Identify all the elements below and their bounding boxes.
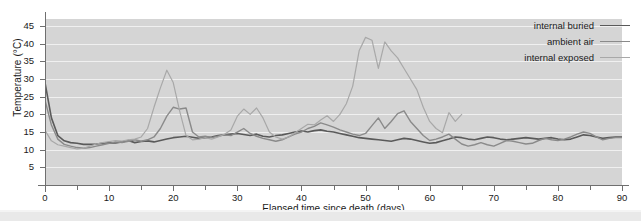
- x-tick-25: [205, 186, 206, 190]
- y-tick-5: [40, 167, 45, 168]
- legend-swatch-ambient-air: [600, 41, 630, 42]
- x-tick-label-20: 20: [158, 192, 188, 203]
- x-tick-60: [430, 186, 431, 191]
- chart-figure: 51015202530354045 0102030405060708090 Te…: [0, 0, 641, 221]
- series-line-internal-exposed: [45, 37, 462, 149]
- legend-label-ambient-air: ambient air: [547, 36, 594, 47]
- legend-item-internal-buried: internal buried: [455, 17, 630, 33]
- x-tick-label-10: 10: [94, 192, 124, 203]
- page-edge-strip: [0, 212, 641, 221]
- chart-legend: internal buried ambient air internal exp…: [455, 17, 630, 65]
- y-tick-label-5: 5: [8, 162, 34, 171]
- y-tick-10: [40, 150, 45, 151]
- x-tick-75: [526, 186, 527, 190]
- legend-label-internal-exposed: internal exposed: [524, 52, 594, 63]
- legend-item-ambient-air: ambient air: [455, 33, 630, 49]
- y-tick-35: [40, 61, 45, 62]
- x-tick-65: [462, 186, 463, 190]
- x-tick-40: [301, 186, 302, 191]
- y-tick-25: [40, 97, 45, 98]
- x-tick-45: [334, 186, 335, 190]
- y-tick-40: [40, 44, 45, 45]
- y-axis-title: Temperature (°C): [12, 8, 23, 148]
- x-tick-50: [366, 186, 367, 191]
- x-tick-label-70: 70: [479, 192, 509, 203]
- x-tick-15: [141, 186, 142, 190]
- x-tick-0: [45, 186, 46, 191]
- y-tick-15: [40, 132, 45, 133]
- y-axis-line: [45, 12, 46, 192]
- x-tick-80: [558, 186, 559, 191]
- x-tick-55: [398, 186, 399, 190]
- legend-swatch-internal-exposed: [600, 57, 630, 58]
- x-tick-10: [109, 186, 110, 191]
- y-tick-30: [40, 79, 45, 80]
- x-tick-35: [269, 186, 270, 190]
- x-tick-label-90: 90: [607, 192, 637, 203]
- x-tick-label-50: 50: [351, 192, 381, 203]
- x-tick-label-60: 60: [415, 192, 445, 203]
- legend-swatch-internal-buried: [600, 25, 630, 26]
- x-tick-label-40: 40: [286, 192, 316, 203]
- y-tick-20: [40, 114, 45, 115]
- legend-label-internal-buried: internal buried: [534, 20, 594, 31]
- x-tick-85: [590, 186, 591, 190]
- x-tick-90: [622, 186, 623, 191]
- series-line-internal-buried: [45, 83, 622, 145]
- x-tick-label-0: 0: [30, 192, 60, 203]
- x-tick-20: [173, 186, 174, 191]
- series-line-ambient-air: [45, 100, 622, 148]
- x-tick-70: [494, 186, 495, 191]
- legend-item-internal-exposed: internal exposed: [455, 49, 630, 65]
- x-tick-30: [237, 186, 238, 191]
- x-tick-label-30: 30: [222, 192, 252, 203]
- y-tick-45: [40, 26, 45, 27]
- x-tick-label-80: 80: [543, 192, 573, 203]
- x-tick-5: [77, 186, 78, 190]
